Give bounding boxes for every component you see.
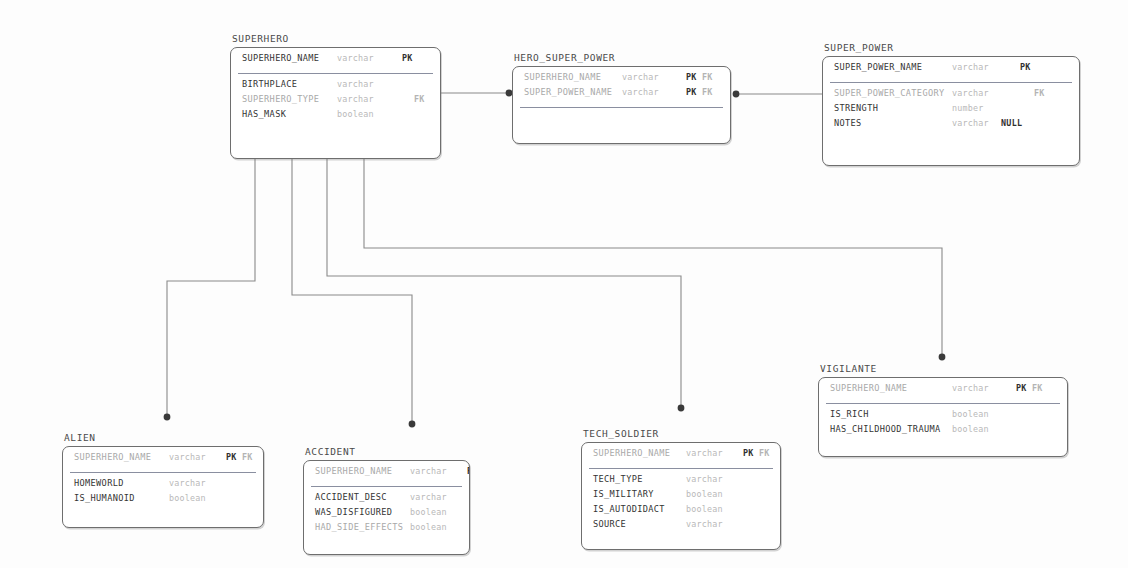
entity-box[interactable]: SUPERHERO_NAMEvarcharPK FKSUPER_POWER_NA… xyxy=(512,66,731,144)
attribute-type: varchar xyxy=(169,478,206,488)
attribute-row: TECH_TYPEvarchar xyxy=(593,474,771,489)
attribute-key-flags: PK FK xyxy=(686,87,713,97)
attribute-type: varchar xyxy=(952,88,989,98)
attribute-type: varchar xyxy=(686,474,723,484)
entity-hero_super_power[interactable]: HERO_SUPER_POWERSUPERHERO_NAMEvarcharPK … xyxy=(512,52,731,144)
attribute-type: varchar xyxy=(686,448,723,458)
attribute-name: STRENGTH xyxy=(834,103,878,113)
entity-box[interactable]: SUPERHERO_NAMEvarcharPK FKTECH_TYPEvarch… xyxy=(581,442,781,550)
attribute-name: SUPER_POWER_CATEGORY xyxy=(834,88,944,98)
entity-title: VIGILANTE xyxy=(818,363,1068,374)
attribute-type: varchar xyxy=(337,53,374,63)
attribute-name: SUPERHERO_NAME xyxy=(242,53,319,63)
entity-box[interactable]: SUPER_POWER_NAMEvarcharPKSUPER_POWER_CAT… xyxy=(822,56,1080,166)
entity-tech_soldier[interactable]: TECH_SOLDIERSUPERHERO_NAMEvarcharPK FKTE… xyxy=(581,428,781,550)
fk-flag: FK xyxy=(697,72,713,82)
attribute-key-flags: NULL xyxy=(1001,118,1022,128)
entity-super_power[interactable]: SUPER_POWERSUPER_POWER_NAMEvarcharPKSUPE… xyxy=(822,42,1080,166)
entity-box[interactable]: SUPERHERO_NAMEvarcharPK FKHOMEWORLDvarch… xyxy=(62,446,264,528)
pk-flag: PK xyxy=(686,87,697,97)
attribute-section: BIRTHPLACEvarcharSUPERHERO_TYPEvarcharFK… xyxy=(231,74,440,129)
attribute-name: NOTES xyxy=(834,118,862,128)
fk-flag: FK xyxy=(414,94,425,104)
entity-box[interactable]: SUPERHERO_NAMEvarcharPK FKIS_RICHboolean… xyxy=(818,377,1068,457)
attribute-type: varchar xyxy=(622,72,659,82)
attribute-row: STRENGTHnumber xyxy=(834,103,1070,118)
attribute-name: HAS_CHILDHOOD_TRAUMA xyxy=(830,424,940,434)
attribute-row: ACCIDENT_DESCvarchar xyxy=(315,492,460,507)
entity-accident[interactable]: ACCIDENTSUPERHERO_NAMEvarcharPK FKACCIDE… xyxy=(303,446,470,555)
attribute-name: SUPERHERO_NAME xyxy=(74,452,151,462)
attribute-name: IS_HUMANOID xyxy=(74,493,135,503)
attribute-key-flags: PK xyxy=(1020,62,1031,72)
primary-key-section: SUPERHERO_NAMEvarcharPK FK xyxy=(63,447,263,472)
attribute-row: SUPERHERO_NAMEvarcharPK FK xyxy=(315,466,460,481)
fk-flag: FK xyxy=(1034,88,1045,98)
attribute-row: IS_RICHboolean xyxy=(830,409,1058,424)
attribute-row: HAD_SIDE_EFFECTSboolean xyxy=(315,522,460,537)
attribute-section: HOMEWORLDvarcharIS_HUMANOIDboolean xyxy=(63,473,263,513)
attribute-row: SUPERHERO_NAMEvarcharPK FK xyxy=(524,72,721,87)
attribute-name: SUPERHERO_TYPE xyxy=(242,94,319,104)
empty-attribute-area xyxy=(524,113,721,127)
entity-title: SUPER_POWER xyxy=(822,42,1080,53)
fk-flag: FK xyxy=(754,448,770,458)
attribute-section xyxy=(513,108,730,132)
attribute-key-flags: FK xyxy=(1034,88,1045,98)
pk-flag: PK xyxy=(226,452,237,462)
attribute-name: HOMEWORLD xyxy=(74,478,124,488)
entity-vigilante[interactable]: VIGILANTESUPERHERO_NAMEvarcharPK FKIS_RI… xyxy=(818,363,1068,457)
relationship-line xyxy=(364,145,942,355)
attribute-row: HAS_MASKboolean xyxy=(242,109,431,124)
attribute-type: boolean xyxy=(169,493,206,503)
attribute-key-flags: PK FK xyxy=(467,466,470,476)
attribute-row: SOURCEvarchar xyxy=(593,519,771,534)
entity-title: SUPERHERO xyxy=(230,33,441,44)
attribute-section: SUPER_POWER_CATEGORYvarcharFKSTRENGTHnum… xyxy=(823,83,1079,138)
attribute-name: SUPERHERO_NAME xyxy=(524,72,601,82)
attribute-key-flags: PK FK xyxy=(1016,383,1043,393)
attribute-type: number xyxy=(952,103,983,113)
attribute-name: HAD_SIDE_EFFECTS xyxy=(315,522,403,532)
attribute-key-flags: PK xyxy=(402,53,413,63)
attribute-type: varchar xyxy=(169,452,206,462)
attribute-type: boolean xyxy=(410,522,447,532)
attribute-name: IS_RICH xyxy=(830,409,869,419)
relationship-endpoint-dot xyxy=(678,405,685,412)
attribute-type: boolean xyxy=(337,109,374,119)
pk-flag: PK xyxy=(1016,383,1027,393)
attribute-type: varchar xyxy=(622,87,659,97)
attribute-row: SUPERHERO_NAMEvarcharPK xyxy=(242,53,431,68)
attribute-name: SUPER_POWER_NAME xyxy=(834,62,922,72)
attribute-name: SUPERHERO_NAME xyxy=(830,383,907,393)
relationship-line xyxy=(167,145,255,415)
pk-flag: PK xyxy=(743,448,754,458)
primary-key-section: SUPERHERO_NAMEvarcharPK FK xyxy=(819,378,1067,403)
attribute-name: HAS_MASK xyxy=(242,109,286,119)
pk-flag: PK xyxy=(402,53,413,63)
relationship-line xyxy=(292,145,412,422)
entity-box[interactable]: SUPERHERO_NAMEvarcharPK FKACCIDENT_DESCv… xyxy=(303,460,470,555)
primary-key-section: SUPERHERO_NAMEvarcharPK FK xyxy=(304,461,469,486)
entity-alien[interactable]: ALIENSUPERHERO_NAMEvarcharPK FKHOMEWORLD… xyxy=(62,432,264,528)
attribute-type: boolean xyxy=(686,489,723,499)
attribute-name: SUPERHERO_NAME xyxy=(315,466,392,476)
entity-title: HERO_SUPER_POWER xyxy=(512,52,731,63)
attribute-name: IS_MILITARY xyxy=(593,489,654,499)
fk-flag: FK xyxy=(1027,383,1043,393)
relationship-endpoint-dot xyxy=(164,414,171,421)
entity-superhero[interactable]: SUPERHEROSUPERHERO_NAMEvarcharPKBIRTHPLA… xyxy=(230,33,441,159)
attribute-row: IS_AUTODIDACTboolean xyxy=(593,504,771,519)
attribute-name: TECH_TYPE xyxy=(593,474,643,484)
fk-flag: FK xyxy=(237,452,253,462)
attribute-type: boolean xyxy=(410,507,447,517)
attribute-row: SUPERHERO_NAMEvarcharPK FK xyxy=(593,448,771,463)
attribute-row: SUPERHERO_NAMEvarcharPK FK xyxy=(830,383,1058,398)
attribute-row: SUPERHERO_TYPEvarcharFK xyxy=(242,94,431,109)
attribute-type: varchar xyxy=(410,492,447,502)
pk-flag: PK xyxy=(467,466,470,476)
relationship-line xyxy=(327,145,681,406)
er-diagram-canvas: SUPERHEROSUPERHERO_NAMEvarcharPKBIRTHPLA… xyxy=(0,0,1128,568)
attribute-type: boolean xyxy=(952,424,989,434)
entity-box[interactable]: SUPERHERO_NAMEvarcharPKBIRTHPLACEvarchar… xyxy=(230,47,441,159)
